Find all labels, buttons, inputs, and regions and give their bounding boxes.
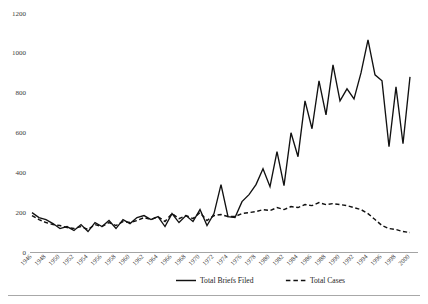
y-tick-label: 1000 [12,49,27,57]
x-tick-label: 1982 [271,253,285,267]
x-tick-label: 1964 [145,252,160,267]
x-tick-label: 1988 [313,253,327,267]
x-tick-label: 1946 [19,253,33,267]
x-tick-label: 1968 [173,253,187,267]
y-tick-label: 1200 [12,10,27,18]
y-tick-label: 400 [16,169,27,177]
y-tick-label: 800 [16,89,27,97]
x-tick-label: 1970 [187,253,201,267]
x-tick-label: 1974 [215,252,230,267]
x-tick-label: 1956 [89,253,103,267]
x-tick-label: 1976 [229,253,243,267]
y-tick-label: 200 [16,209,27,217]
chart-figure: 020040060080010001200 194619481950195219… [0,0,428,304]
y-tick-label: 600 [16,129,27,137]
x-tick-label: 1996 [369,253,383,267]
x-tick-label: 1980 [257,253,271,267]
y-axis-tick-labels: 020040060080010001200 [12,10,27,258]
series-line-total-briefs-filed [32,40,410,232]
x-tick-label: 1992 [341,253,355,267]
x-tick-label: 1986 [299,253,313,267]
x-tick-label: 1962 [131,253,145,267]
chart-legend: Total Briefs FiledTotal Cases [176,276,345,285]
x-tick-label: 1984 [285,252,300,267]
x-tick-label: 1972 [201,253,215,267]
x-tick-label: 2000 [397,253,411,267]
x-tick-label: 1950 [47,253,61,267]
legend-label: Total Briefs Filed [200,276,254,285]
line-chart: 020040060080010001200 194619481950195219… [0,0,428,304]
series-line-total-cases [32,203,410,233]
x-axis-tick-labels: 1946194819501952195419561958196019621964… [19,252,411,267]
legend-label: Total Cases [310,276,345,285]
x-tick-label: 1998 [383,253,397,267]
x-tick-label: 1978 [243,253,257,267]
x-tick-label: 1960 [117,253,131,267]
x-tick-label: 1990 [327,253,341,267]
x-tick-label: 1948 [33,253,47,267]
x-tick-label: 1954 [75,252,90,267]
x-tick-label: 1994 [355,252,370,267]
x-tick-label: 1966 [159,253,173,267]
x-tick-label: 1952 [61,253,75,267]
x-tick-label: 1958 [103,253,117,267]
